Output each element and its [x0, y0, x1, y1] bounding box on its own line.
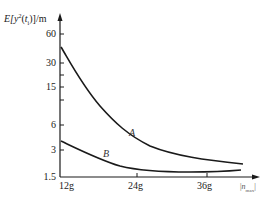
- y-axis-title: E[y2(ti)]/m: [4, 13, 46, 26]
- x-title-bar-right: |: [254, 182, 256, 191]
- curve-b-label: B: [103, 148, 109, 159]
- y-title-suffix: )]/m: [29, 13, 46, 24]
- curve-a: [61, 47, 243, 164]
- y-tick-label: 3: [32, 145, 56, 155]
- x-axis-arrow-icon: [252, 175, 260, 180]
- y-tick-label: 60: [32, 29, 56, 39]
- x-tick-label: 24g: [128, 181, 143, 191]
- y-tick-label: 15: [32, 82, 56, 92]
- y-axis-arrow-icon: [58, 13, 63, 21]
- x-axis-title: |nmax|: [240, 182, 256, 193]
- y-tick-label: 30: [32, 58, 56, 68]
- y-tick-label: 6: [32, 120, 56, 130]
- y-title-prefix: E[: [4, 13, 14, 24]
- x-tick-label: 36g: [197, 181, 212, 191]
- x-title-sub: max: [246, 188, 255, 193]
- y-tick-label: 1.5: [32, 172, 56, 182]
- curve-a-label: A: [129, 127, 135, 138]
- x-tick-label: 12g: [59, 181, 74, 191]
